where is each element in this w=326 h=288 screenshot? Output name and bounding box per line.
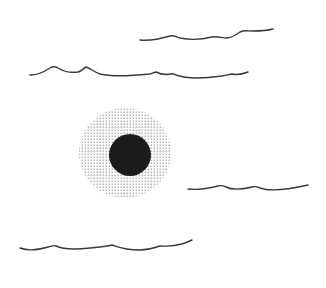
wave-line-icon	[20, 240, 192, 250]
sun-disc-icon	[109, 134, 151, 176]
wave-line-icon	[140, 29, 273, 40]
wave-line-icon	[30, 67, 248, 78]
illustration-canvas: Minimal line illustration: black sun dis…	[0, 0, 326, 288]
illustration-svg	[0, 0, 326, 288]
wave-line-icon	[188, 185, 308, 190]
